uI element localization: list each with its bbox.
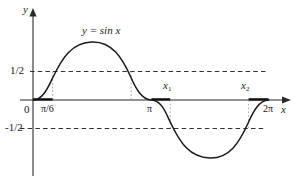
x2-label-subscript: 2 bbox=[246, 85, 250, 93]
y-axis-arrowhead bbox=[29, 8, 36, 17]
y-tick-label-half: 1/2 bbox=[10, 65, 24, 76]
x-tick-label-pi-over-6: π/6 bbox=[41, 104, 54, 114]
sine-graph-figure: y x 0 1/2 -1/2 π/6 π 2π x1 x2 y = sin x bbox=[0, 0, 299, 177]
x1-label: x1 bbox=[163, 80, 171, 91]
sine-plot-svg bbox=[0, 0, 299, 177]
x2-label: x2 bbox=[241, 80, 249, 91]
origin-label: 0 bbox=[24, 104, 30, 115]
y-tick-label-negative-half: -1/2 bbox=[5, 122, 23, 133]
y-axis-label: y bbox=[23, 4, 28, 15]
x-tick-label-two-pi: 2π bbox=[263, 104, 273, 114]
x-axis-label: x bbox=[281, 104, 286, 115]
x-tick-label-pi: π bbox=[147, 104, 152, 114]
curve-equation-label: y = sin x bbox=[82, 25, 120, 36]
x1-label-subscript: 1 bbox=[168, 85, 172, 93]
axes-group bbox=[20, 8, 291, 176]
